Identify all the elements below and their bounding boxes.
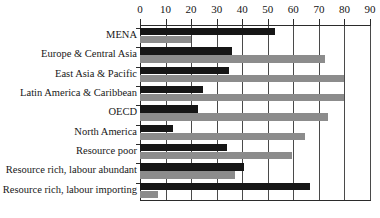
bar-series-dark	[140, 125, 173, 132]
category-label: North America	[0, 126, 137, 138]
bar-series-dark	[140, 105, 198, 112]
x-axis-tick-label: 20	[186, 3, 197, 16]
chart-row: Resource rich, labour abundant	[0, 161, 380, 180]
x-axis-tick-labels: 0102030405060708090	[0, 0, 380, 26]
bar-series-dark	[140, 28, 275, 35]
x-axis-tick-label: 50	[262, 3, 273, 16]
bar-series-dark	[140, 86, 203, 93]
x-axis-tick-label: 90	[365, 3, 376, 16]
bar-series-grey	[140, 36, 191, 43]
category-label: Resource rich, labour importing	[0, 184, 137, 196]
x-axis-tick-label: 30	[211, 3, 222, 16]
bar-series-dark	[140, 67, 229, 74]
axis-baseline	[140, 200, 371, 201]
bar-series-grey	[140, 152, 292, 159]
chart-row: MENA	[0, 26, 380, 45]
chart-row: Europe & Central Asia	[0, 45, 380, 64]
bar-series-grey	[140, 55, 325, 62]
bar-series-grey	[140, 191, 158, 198]
x-axis-tick-label: 0	[137, 3, 143, 16]
x-axis-tick-label: 40	[237, 3, 248, 16]
chart-rows: MENAEurope & Central AsiaEast Asia & Pac…	[0, 26, 380, 200]
category-label: Resource rich, labour abundant	[0, 164, 137, 176]
x-axis-tick-label: 60	[288, 3, 299, 16]
bar-series-dark	[140, 163, 244, 170]
category-label: East Asia & Pacific	[0, 68, 137, 80]
bar-series-grey	[140, 113, 328, 120]
bar-chart: 0102030405060708090 MENAEurope & Central…	[0, 0, 380, 218]
category-label: MENA	[0, 29, 137, 41]
chart-row: Latin America & Caribbean	[0, 84, 380, 103]
bar-series-dark	[140, 47, 232, 54]
bar-series-dark	[140, 183, 310, 190]
x-axis-tick-label: 70	[313, 3, 324, 16]
category-label: OECD	[0, 106, 137, 118]
x-axis-tick-label: 80	[339, 3, 350, 16]
category-label: Europe & Central Asia	[0, 48, 137, 60]
bar-series-grey	[140, 94, 344, 101]
bar-series-dark	[140, 144, 227, 151]
bar-series-grey	[140, 171, 235, 178]
x-axis-tick-label: 10	[160, 3, 171, 16]
category-label: Latin America & Caribbean	[0, 87, 137, 99]
chart-row: North America	[0, 123, 380, 142]
chart-row: Resource rich, labour importing	[0, 181, 380, 200]
bar-series-grey	[140, 75, 344, 82]
category-label: Resource poor	[0, 145, 137, 157]
chart-row: OECD	[0, 103, 380, 122]
chart-row: Resource poor	[0, 142, 380, 161]
chart-row: East Asia & Pacific	[0, 65, 380, 84]
bar-series-grey	[140, 133, 305, 140]
